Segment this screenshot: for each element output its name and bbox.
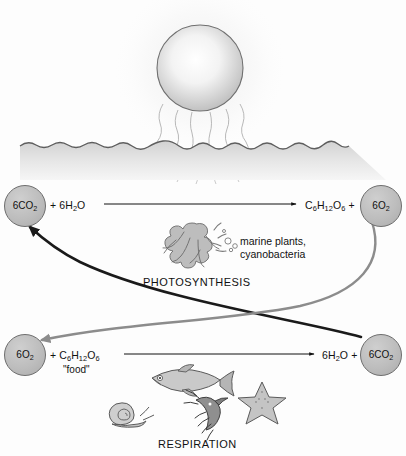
- food-label: "food": [63, 364, 90, 375]
- snail-icon: [109, 403, 154, 427]
- co2-product-label: 6CO2: [369, 349, 394, 362]
- o2-reactant-label: 6O2: [16, 349, 33, 362]
- o2-product-label: 6O2: [372, 200, 389, 213]
- starfish-icon: [238, 382, 286, 424]
- respiration-label: RESPIRATION: [158, 438, 237, 450]
- photosynthesis-glucose-product: C6H12O6 +: [305, 199, 355, 213]
- co2-reactant-label: 6CO2: [13, 200, 38, 213]
- marine-plants-caption-line1: marine plants,: [240, 235, 306, 247]
- shrimp-icon: [184, 390, 228, 440]
- photosynthesis-product-o2-circle: 6O2: [360, 185, 402, 227]
- fish-icon: [152, 365, 234, 397]
- diagram-canvas: 6CO2 + 6H2O C6H12O6 + 6O2 marine plants,…: [0, 0, 406, 456]
- respiration-reactant-o2-circle: 6O2: [4, 334, 46, 376]
- oxygen-bubbles-icon: [223, 230, 238, 252]
- photosynthesis-reactant-co2-circle: 6CO2: [4, 185, 46, 227]
- respiration-glucose-reactant: + C6H12O6: [50, 349, 100, 363]
- photosynthesis-water-reactant: + 6H2O: [50, 199, 85, 213]
- respiration-water-product: 6H2O +: [322, 349, 357, 363]
- organisms-layer: [0, 0, 406, 456]
- bubble-streaks: [212, 223, 226, 251]
- respiration-product-co2-circle: 6CO2: [360, 334, 402, 376]
- marine-plants-caption-line2: cyanobacteria: [240, 248, 305, 260]
- photosynthesis-label: PHOTOSYNTHESIS: [143, 276, 251, 288]
